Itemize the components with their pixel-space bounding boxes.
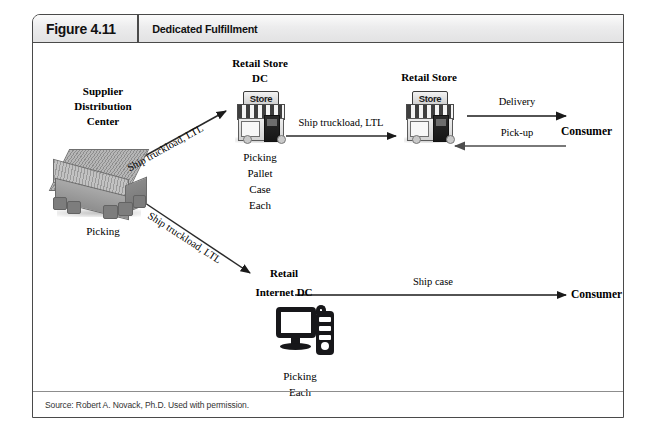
store-icon-retail-store: Store [403,91,455,145]
supplier-dc-title-line3: Center [55,115,151,128]
edge-label-delivery: Delivery [467,96,567,108]
edge-label-store-dc-to-store: Ship truckload, LTL [286,117,396,129]
retail-internet-dc-title-line2: Internet DC [229,286,339,299]
consumer-top-label: Consumer [561,125,647,138]
retail-store-dc-activity-2: Case [205,183,315,196]
supplier-dc-title-line1: Supplier [55,85,151,98]
retail-store-dc-title-line1: Retail Store [205,57,315,70]
figure-frame: Figure 4.11 Dedicated Fulfillment [32,14,624,418]
supplier-dc-activity-picking: Picking [55,225,151,238]
figure-source: Source: Robert A. Novack, Ph.D. Used wit… [33,391,623,417]
consumer-bottom-label: Consumer [571,288,656,301]
retail-internet-dc-title-line1: Retail [229,267,339,280]
computer-icon [276,305,338,363]
figure-header: Figure 4.11 Dedicated Fulfillment [33,15,623,43]
edge-label-ship-case: Ship case [378,276,488,288]
retail-store-title: Retail Store [374,71,484,84]
store-icon-retail-store-dc: Store [234,91,286,145]
retail-internet-dc-activity-0: Picking [245,370,355,383]
figure-title: Dedicated Fulfillment [139,23,258,35]
diagram-canvas: Supplier Distribution Center Picking Ret… [33,43,623,391]
retail-store-dc-activity-0: Picking [205,151,315,164]
edge-label-pickup: Pick-up [467,127,567,139]
supplier-dc-title-line2: Distribution [55,100,151,113]
retail-store-dc-activity-1: Pallet [205,167,315,180]
retail-store-dc-activity-3: Each [205,199,315,212]
retail-store-dc-title-line2: DC [205,72,315,85]
figure-number: Figure 4.11 [33,15,130,42]
edge-supplier-to-internet-dc-line [145,203,250,273]
